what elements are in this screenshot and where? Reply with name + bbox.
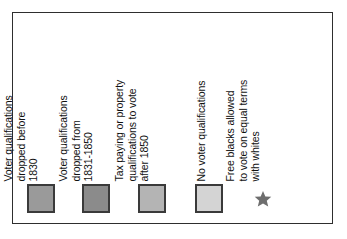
legend-label-line: Free blacks allowed bbox=[224, 31, 237, 181]
color-swatch bbox=[27, 184, 55, 213]
legend-label-line: dropped before bbox=[14, 31, 27, 181]
legend-entry-label: Tax paying or property qualifications to… bbox=[138, 31, 192, 181]
legend-entry-label: Free blacks allowed to vote on equal ter… bbox=[249, 31, 311, 181]
legend-label-line: 1830 bbox=[27, 31, 40, 181]
legend-label-line: 1831-1850 bbox=[82, 31, 95, 181]
star-icon bbox=[249, 184, 277, 213]
legend-frame: Voter qualifications dropped before 1830… bbox=[12, 12, 333, 224]
legend-label-line: qualifications to vote bbox=[125, 31, 138, 181]
color-swatch bbox=[195, 184, 223, 213]
color-swatch bbox=[138, 184, 166, 213]
legend-label-line: Tax paying or property bbox=[113, 31, 126, 181]
legend-entries: Voter qualifications dropped before 1830… bbox=[13, 13, 332, 223]
legend-label-line: Voter qualifications bbox=[2, 31, 15, 181]
legend-label-line: after 1850 bbox=[138, 31, 151, 181]
legend-label-line: dropped from bbox=[69, 31, 82, 181]
legend-label-line: to vote on equal terms bbox=[236, 31, 249, 181]
color-swatch bbox=[82, 184, 110, 213]
legend-label-line: No voter qualifications bbox=[195, 31, 208, 181]
legend-label-line: with whites bbox=[249, 31, 262, 181]
legend-label-line: Voter qualifications bbox=[57, 31, 70, 181]
